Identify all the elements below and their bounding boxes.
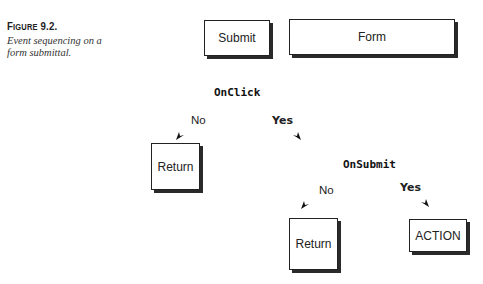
- figure-description-line-1: Event sequencing on a: [7, 35, 127, 47]
- action-box-label: ACTION: [415, 229, 460, 243]
- figure-description-line-2: form submittal.: [7, 47, 127, 59]
- arrowhead-down-left-icon: [175, 131, 185, 141]
- action-box: ACTION: [409, 219, 467, 252]
- onclick-return-label: Return: [157, 160, 193, 174]
- onclick-yes-label: Yes: [272, 114, 293, 127]
- figure-number: 9.2.: [38, 20, 58, 32]
- onsubmit-return-label: Return: [295, 237, 331, 251]
- onclick-no-label: No: [191, 114, 206, 126]
- form-box: Form: [289, 19, 455, 55]
- figure-description: Event sequencing on a form submittal.: [7, 35, 127, 59]
- figure-title: FIGURE 9.2.: [7, 20, 113, 34]
- form-box-label: Form: [358, 30, 386, 44]
- arrowhead-down-right-icon: [420, 198, 430, 208]
- submit-box-label: Submit: [218, 31, 255, 45]
- submit-box: Submit: [204, 20, 270, 56]
- onsubmit-label: OnSubmit: [343, 158, 396, 171]
- arrowhead-down-left-icon: [300, 200, 310, 210]
- onsubmit-yes-label: Yes: [400, 181, 421, 194]
- onclick-return-box: Return: [151, 143, 200, 190]
- figure-label-rest: IGURE: [13, 22, 38, 32]
- figure-caption: FIGURE 9.2. Event sequencing on a form s…: [7, 20, 127, 59]
- arrowhead-down-right-icon: [292, 131, 302, 141]
- onsubmit-return-box: Return: [289, 218, 338, 270]
- onsubmit-no-label: No: [319, 184, 334, 196]
- onclick-label: OnClick: [214, 86, 260, 99]
